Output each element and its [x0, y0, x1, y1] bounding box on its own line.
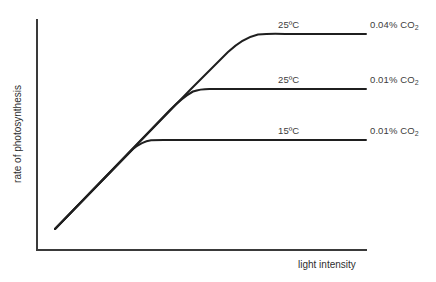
curve-25c-001-co2	[55, 89, 366, 229]
photosynthesis-light-response-chart: 25ºC 25ºC 15ºC 0.04% CO2 0.01% CO2 0.01%…	[0, 0, 436, 282]
y-axis-label-wrapper: rate of photosynthesis	[7, 74, 25, 194]
chart-plot-area	[0, 0, 436, 282]
curve-label-temperature-2: 25ºC	[278, 74, 299, 85]
y-axis-label: rate of photosynthesis	[12, 85, 23, 183]
x-axis-label: light intensity	[298, 259, 356, 270]
curve-15c-001-co2	[55, 140, 366, 229]
curve-label-co2-1-subscript: 2	[415, 24, 419, 31]
curve-label-co2-1: 0.04% CO2	[370, 19, 419, 30]
curve-25c-004-co2	[55, 34, 366, 229]
curve-label-temperature-1: 25ºC	[278, 19, 299, 30]
curve-label-co2-2: 0.01% CO2	[370, 74, 419, 85]
curve-label-co2-3-subscript: 2	[415, 130, 419, 137]
curve-label-co2-2-subscript: 2	[415, 79, 419, 86]
curve-label-temperature-3: 15ºC	[278, 125, 299, 136]
curve-label-co2-3: 0.01% CO2	[370, 125, 419, 136]
curve-label-co2-1-text: 0.04% CO	[370, 19, 415, 30]
curve-label-co2-3-text: 0.01% CO	[370, 125, 415, 136]
curve-label-co2-2-text: 0.01% CO	[370, 74, 415, 85]
